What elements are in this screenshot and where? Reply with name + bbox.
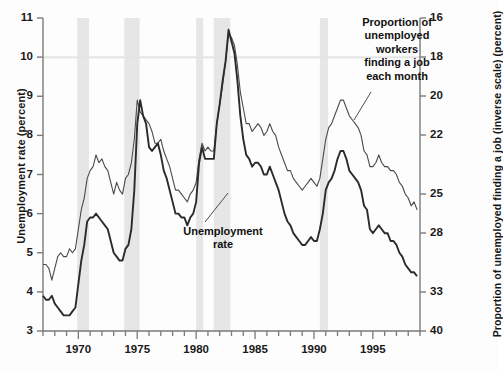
right-axis-title: Proportion of unemployed finding a job (… [491, 4, 503, 344]
left-tick-label-4: 4 [7, 285, 33, 297]
right-tick-label-25: 25 [430, 187, 456, 199]
x-tick-label-1975: 1975 [112, 343, 162, 355]
annotation-job-line-5: each month [338, 70, 456, 83]
recession-band [214, 18, 230, 331]
annotation-unrate-line-1: Unemployment [171, 225, 275, 238]
left-tick-label-11: 11 [7, 11, 33, 23]
leader-line-job-finding [354, 92, 371, 120]
left-tick-label-5: 5 [7, 246, 33, 258]
x-tick-label-1970: 1970 [53, 343, 103, 355]
x-tick-label-1995: 1995 [348, 343, 398, 355]
x-tick-label-1985: 1985 [230, 343, 280, 355]
left-tick-label-10: 10 [7, 50, 33, 62]
left-tick-label-7: 7 [7, 168, 33, 180]
right-tick-label-20: 20 [430, 89, 456, 101]
left-tick-label-9: 9 [7, 89, 33, 101]
x-tick-label-1980: 1980 [171, 343, 221, 355]
right-tick-label-28: 28 [430, 226, 456, 238]
recession-band [320, 18, 328, 331]
recession-band [124, 18, 139, 331]
right-tick-label-22: 22 [430, 128, 456, 140]
right-tick-label-33: 33 [430, 285, 456, 297]
right-tick-label-16: 16 [430, 11, 456, 23]
right-tick-label-40: 40 [430, 324, 456, 336]
left-tick-label-8: 8 [7, 128, 33, 140]
right-tick-label-18: 18 [430, 50, 456, 62]
annotation-unrate-line-2: rate [171, 238, 275, 251]
left-tick-label-3: 3 [7, 324, 33, 336]
left-tick-label-6: 6 [7, 207, 33, 219]
annotation-job-line-2: unemployed [338, 29, 456, 42]
annotation-unemployment-rate: Unemployment rate [171, 225, 275, 252]
x-tick-label-1990: 1990 [289, 343, 339, 355]
